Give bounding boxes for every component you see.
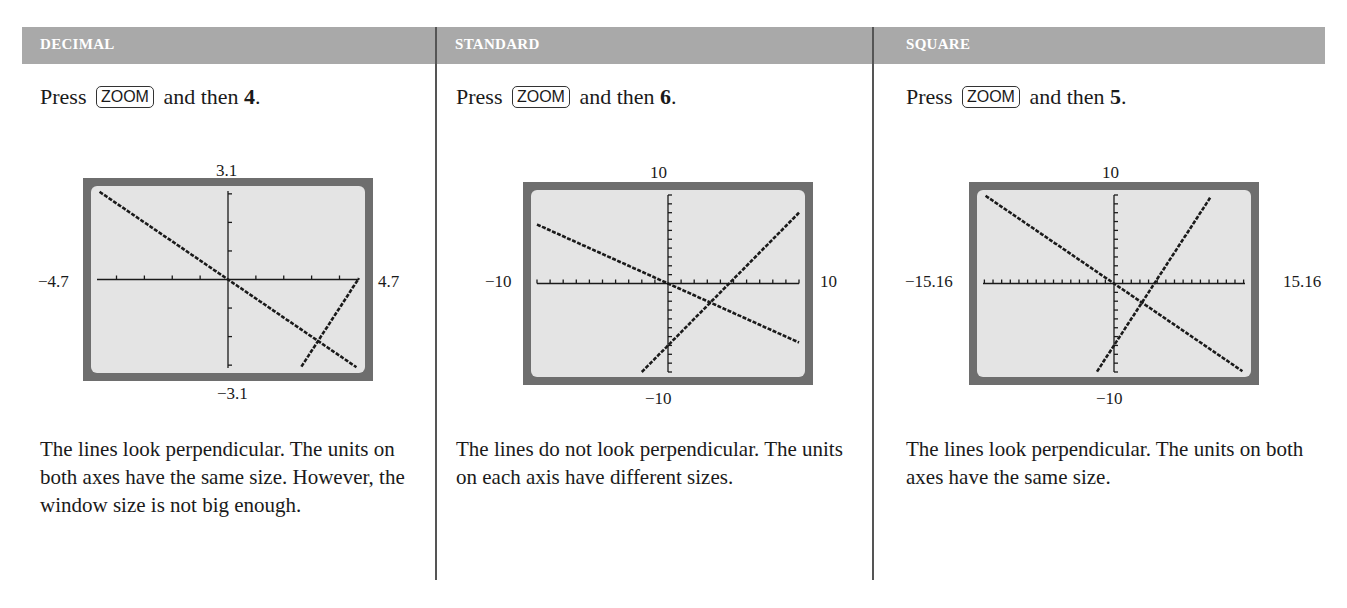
instruction-prefix: Press	[456, 84, 502, 109]
instruction: Press ZOOM and then 6.	[456, 84, 677, 110]
column-standard: STANDARD Press ZOOM and then 6. 10 −10 −…	[437, 27, 872, 580]
graph-decimal	[83, 178, 373, 385]
xmin-label: −4.7	[38, 272, 69, 292]
instruction-prefix: Press	[906, 84, 952, 109]
ymin-label: −3.1	[217, 384, 248, 404]
key-number: 6	[660, 84, 671, 109]
instruction-suffix: and then	[163, 84, 238, 109]
zoom-key: ZOOM	[962, 86, 1020, 108]
instruction: Press ZOOM and then 5.	[906, 84, 1127, 110]
caption: The lines look perpendicular. The units …	[40, 435, 430, 519]
ymin-label: −10	[645, 389, 672, 409]
calculator-screen	[969, 182, 1259, 385]
xmax-label: 4.7	[378, 272, 399, 292]
punct: .	[255, 84, 261, 109]
instruction-suffix: and then	[1029, 84, 1104, 109]
graph-square	[969, 182, 1259, 389]
calculator-screen	[83, 178, 373, 381]
punct: .	[671, 84, 677, 109]
key-number: 4	[244, 84, 255, 109]
column-title: SQUARE	[906, 36, 970, 53]
instruction-prefix: Press	[40, 84, 86, 109]
zoom-key: ZOOM	[96, 86, 154, 108]
column-title: DECIMAL	[40, 36, 115, 53]
ymax-label: 10	[650, 163, 667, 183]
punct: .	[1121, 84, 1127, 109]
calculator-screen	[523, 182, 813, 385]
instruction-suffix: and then	[579, 84, 654, 109]
xmin-label: −15.16	[905, 272, 953, 292]
ymax-label: 10	[1102, 163, 1119, 183]
xmin-label: −10	[485, 272, 512, 292]
xmax-label: 10	[820, 272, 837, 292]
column-square: SQUARE Press ZOOM and then 5. 10 −10 −15…	[874, 27, 1347, 580]
column-decimal: DECIMAL Press ZOOM and then 4. 3.1 −3.1 …	[0, 27, 435, 580]
caption: The lines look perpendicular. The units …	[906, 435, 1306, 491]
instruction: Press ZOOM and then 4.	[40, 84, 261, 110]
graph-standard	[523, 182, 813, 389]
column-title: STANDARD	[455, 36, 540, 53]
caption: The lines do not look perpendicular. The…	[456, 435, 856, 491]
key-number: 5	[1110, 84, 1121, 109]
ymin-label: −10	[1096, 389, 1123, 409]
zoom-key: ZOOM	[512, 86, 570, 108]
xmax-label: 15.16	[1283, 272, 1321, 292]
